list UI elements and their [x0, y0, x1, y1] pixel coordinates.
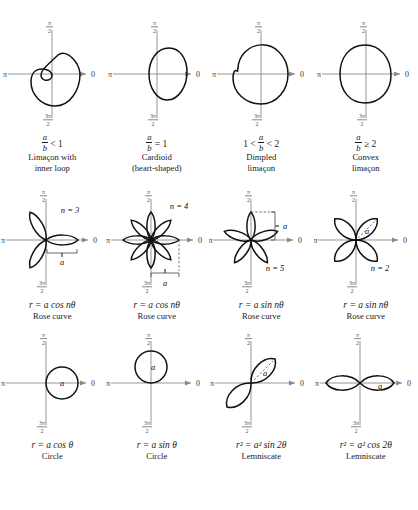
- tick-pi: π: [210, 379, 214, 388]
- axes: [322, 30, 400, 118]
- row-limacons: π 2 3π 2 π 0 a b: [0, 0, 418, 173]
- tick-pi-over-2-num: π: [257, 20, 260, 26]
- axis-arrow-zero: [289, 381, 295, 386]
- tick-3pi-over-2-den: 2: [47, 121, 50, 127]
- tick-3pi-over-2-num: 3π: [244, 420, 250, 426]
- panel-lemniscate-sin: π 2 3π 2 π 0 a r² = a² sin 2: [209, 331, 314, 461]
- tick-3pi-over-2-num: 3π: [45, 113, 51, 119]
- panel-rose-sin-n5: π 2 3π 2 π 0: [209, 185, 314, 321]
- axis-arrow-zero: [187, 237, 193, 242]
- tick-3pi-over-2-num: 3π: [39, 420, 45, 426]
- equation-circle-cos: r = a cos θ: [31, 440, 73, 451]
- tick-zero: 0: [93, 236, 97, 245]
- equation-lemniscate-cos: r² = a² cos 2θ: [340, 440, 392, 451]
- tick-pi: π: [314, 236, 318, 245]
- tick-3pi-over-2-den: 2: [145, 288, 148, 294]
- caption-circle-sin: r = a sin θ Circle: [137, 440, 177, 461]
- tick-pi-over-2-den: 2: [362, 28, 365, 34]
- name-line1: Lemniscate: [236, 451, 287, 461]
- curve-limacon-inner-loop: [31, 53, 80, 106]
- tick-pi-over-2-den: 2: [247, 197, 250, 203]
- fraction-a-over-b: a b: [258, 133, 264, 152]
- rose-n-marker: n = 5: [266, 263, 285, 273]
- amplitude-label-a: a: [365, 226, 369, 236]
- condition-suffix: < 1: [50, 139, 62, 149]
- tick-pi: π: [315, 379, 319, 388]
- fraction-a-over-b: a b: [42, 133, 48, 152]
- tick-pi-over-2-den: 2: [257, 28, 260, 34]
- tick-pi-over-2-num: π: [42, 332, 45, 338]
- tick-pi: π: [106, 379, 110, 388]
- name-line1: Rose curve: [343, 311, 388, 321]
- caption-circle-cos: r = a cos θ Circle: [31, 440, 73, 461]
- tick-pi-over-2-den: 2: [147, 197, 150, 203]
- caption-rose-cos-n3: r = a cos nθ Rose curve: [29, 300, 75, 321]
- condition-suffix: = 1: [155, 139, 167, 149]
- row-circles-lemniscates: π 2 3π 2 π 0 a r = a cos θ Circle: [0, 321, 418, 461]
- fraction-a-over-b: a b: [146, 133, 152, 152]
- circle-sin-svg: π 2 3π 2 π 0 a: [105, 331, 209, 439]
- equation-lemniscate-sin: r² = a² sin 2θ: [236, 440, 287, 451]
- tick-3pi-over-2-den: 2: [151, 121, 154, 127]
- name-line1: Rose curve: [134, 311, 180, 321]
- caption-limacon-inner-loop: a b < 1 Limaçon with inner loop: [28, 133, 76, 173]
- tick-pi: π: [212, 70, 216, 79]
- tick-pi-over-2-num: π: [48, 20, 51, 26]
- panel-dimpled-limacon: π 2 3π 2 π 0 1 < a b: [209, 14, 314, 173]
- axis-arrow-zero: [82, 237, 88, 242]
- cardioid-svg: π 2 3π 2 π 0: [105, 14, 209, 132]
- equation-rose-cos-n3: r = a cos nθ: [29, 300, 75, 311]
- tick-pi-over-2-num: π: [352, 189, 355, 195]
- rose-cos-n4-svg: π 2 3π 2 π 0: [105, 185, 209, 299]
- axes: [217, 30, 295, 118]
- tick-pi-over-2-num: π: [247, 189, 250, 195]
- rose-sin-n2-svg: π 2 3π 2 π 0 a n = 2: [314, 185, 418, 299]
- condition-dimpled-limacon: 1 < a b < 2: [243, 133, 279, 152]
- tick-3pi-over-2-den: 2: [360, 121, 363, 127]
- tick-3pi-over-2-num: 3π: [359, 113, 365, 119]
- panel-limacon-inner-loop: π 2 3π 2 π 0 a b: [0, 14, 105, 173]
- tick-pi-over-2-den: 2: [42, 197, 45, 203]
- tick-3pi-over-2-den: 2: [145, 428, 148, 434]
- tick-3pi-over-2-den: 2: [246, 428, 249, 434]
- caption-rose-sin-n2: r = a sin nθ Rose curve: [343, 300, 388, 321]
- name-line1: Circle: [31, 451, 73, 461]
- lemniscate-cos-svg: π 2 3π 2 π 0 a: [314, 331, 418, 439]
- name-line2: inner loop: [28, 163, 76, 173]
- axis-arrow-zero: [185, 72, 191, 77]
- amplitude-label-a: a: [151, 362, 155, 372]
- tick-pi-over-2-den: 2: [153, 28, 156, 34]
- tick-zero: 0: [403, 236, 407, 245]
- tick-zero: 0: [196, 379, 200, 388]
- panel-rose-cos-n4: π 2 3π 2 π 0: [105, 185, 210, 321]
- panel-circle-cos: π 2 3π 2 π 0 a r = a cos θ Circle: [0, 331, 105, 461]
- axis-arrow-zero: [394, 72, 400, 77]
- fraction-a-over-b: a b: [355, 133, 361, 152]
- plot-rose-cos-n4: π 2 3π 2 π 0: [105, 185, 209, 299]
- axes: [113, 30, 191, 118]
- tick-pi-over-2-num: π: [247, 332, 250, 338]
- tick-3pi-over-2-den: 2: [256, 121, 259, 127]
- amplitude-label-a: a: [60, 378, 64, 388]
- lemniscate-sin-svg: π 2 3π 2 π 0 a: [209, 331, 313, 439]
- plot-dimpled-limacon: π 2 3π 2 π 0: [209, 14, 313, 132]
- tick-3pi-over-2-num: 3π: [254, 113, 260, 119]
- tick-pi-over-2-den: 2: [356, 340, 359, 346]
- tick-pi: π: [108, 70, 112, 79]
- condition-suffix: ≥ 2: [364, 139, 376, 149]
- polar-graphs-reference-sheet: π 2 3π 2 π 0 a b: [0, 0, 418, 510]
- amplitude-brace-a: [47, 249, 77, 257]
- tick-pi: π: [209, 236, 213, 245]
- axis-arrow-zero: [392, 237, 398, 242]
- limacon-inner-loop-svg: π 2 3π 2 π 0: [0, 14, 104, 132]
- panel-circle-sin: π 2 3π 2 π 0 a r = a sin θ Circle: [105, 331, 210, 461]
- name-line1: Rose curve: [29, 311, 75, 321]
- name-line1: Cardioid: [132, 152, 182, 162]
- tick-pi-over-2-num: π: [153, 20, 156, 26]
- tick-zero: 0: [298, 236, 302, 245]
- condition-suffix: < 2: [267, 139, 279, 149]
- tick-zero: 0: [300, 379, 304, 388]
- panel-cardioid: π 2 3π 2 π 0 a b: [105, 14, 210, 173]
- equation-circle-sin: r = a sin θ: [137, 440, 177, 451]
- amplitude-label-a: a: [283, 221, 287, 231]
